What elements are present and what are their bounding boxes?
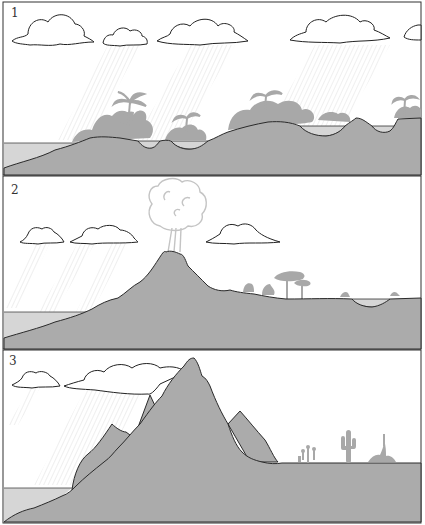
panel-1-label: 1 xyxy=(11,6,19,20)
figure: 1 xyxy=(0,0,425,525)
panel-2-label: 2 xyxy=(11,183,19,197)
illustration: 1 xyxy=(0,0,425,525)
panel-1: 1 xyxy=(3,2,421,175)
panel-3: 3 xyxy=(3,350,421,523)
panel-3-label: 3 xyxy=(9,354,17,368)
panel-2: 2 xyxy=(3,176,421,349)
